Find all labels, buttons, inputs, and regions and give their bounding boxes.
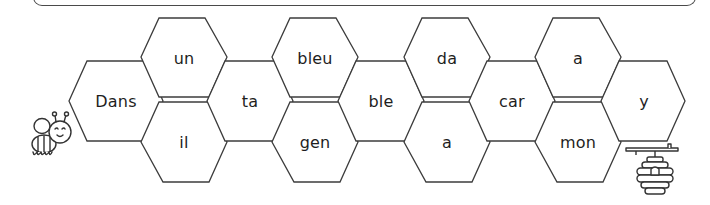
answer-box-frame	[33, 0, 696, 6]
honeycomb-worksheet: Dans un il ta bleu gen ble da a car a	[0, 0, 710, 205]
hex-cell[interactable]: y	[597, 61, 691, 141]
cell-word: y	[597, 61, 691, 141]
beehive-icon	[622, 143, 688, 205]
